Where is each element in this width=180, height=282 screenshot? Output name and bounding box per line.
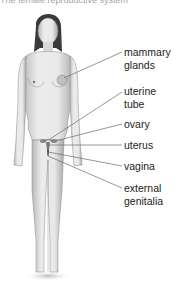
mammary-gland-detail	[57, 75, 67, 85]
label-vagina: vagina	[124, 160, 155, 173]
label-line: mammary	[124, 46, 171, 59]
label-external-genitalia: external genitalia	[124, 182, 163, 208]
label-line: genitalia	[124, 195, 163, 208]
label-uterus: uterus	[124, 139, 153, 152]
label-line: uterine	[124, 85, 156, 98]
label-line: ovary	[124, 118, 150, 131]
label-line: external	[124, 182, 163, 195]
label-line: uterus	[124, 139, 153, 152]
label-ovary: ovary	[124, 118, 150, 131]
label-mammary-glands: mammary glands	[124, 46, 171, 72]
label-line: tube	[124, 98, 156, 111]
label-uterine-tube: uterine tube	[124, 85, 156, 111]
label-line: vagina	[124, 160, 155, 173]
label-line: glands	[124, 59, 171, 72]
